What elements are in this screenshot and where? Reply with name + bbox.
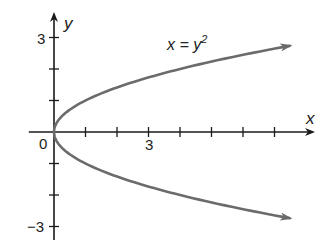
x-axis-label: x — [305, 109, 315, 128]
parabola-lower-branch — [54, 132, 290, 218]
y-tick-label-neg3: −3 — [27, 218, 44, 235]
y-axis-label: y — [63, 14, 74, 33]
equation-exponent: 2 — [200, 33, 207, 45]
equation-base: x = y — [166, 36, 202, 53]
x-tick-label-0: 0 — [39, 135, 47, 152]
equation-label: x = y2 — [166, 33, 207, 53]
x-tick-label-3: 3 — [145, 136, 153, 153]
parabola-upper-branch — [54, 46, 290, 132]
y-tick-label-3: 3 — [37, 30, 45, 47]
parabola-plot: y x 0 3 3 −3 x = y2 — [0, 0, 331, 252]
